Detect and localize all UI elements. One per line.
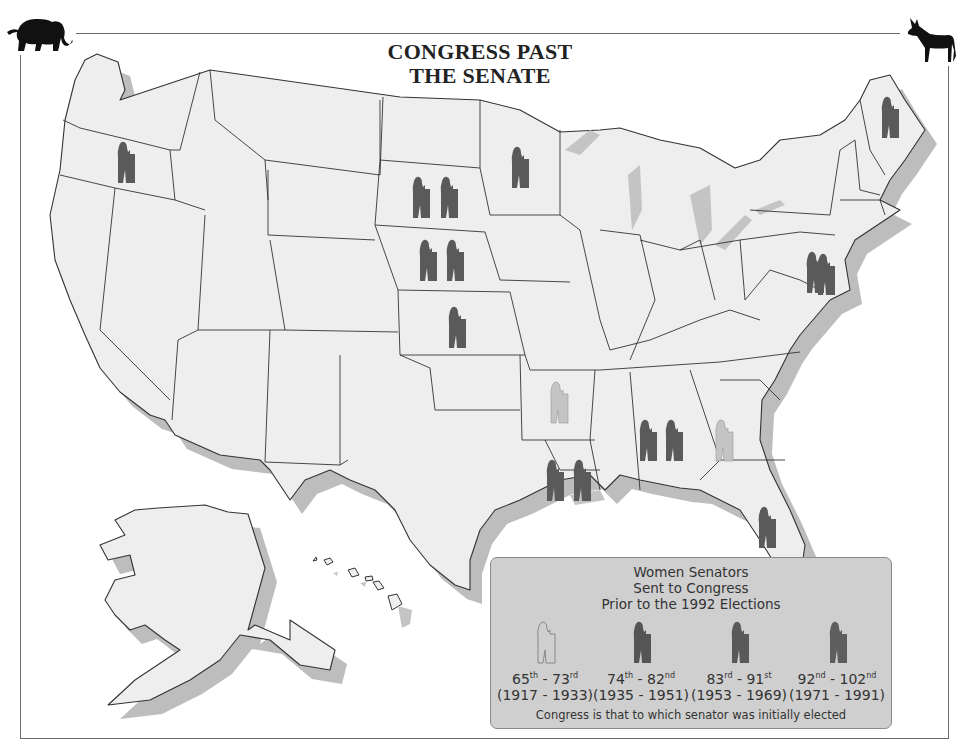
legend-title: Women Senators Sent to Congress Prior to… <box>491 564 891 612</box>
legend-years-3: (1953 - 1969) <box>683 687 795 703</box>
senator-icon <box>443 238 465 286</box>
legend-item-3: 83rd - 91st (1953 - 1969) <box>689 620 789 703</box>
legend-title-line-3: Prior to the 1992 Elections <box>491 596 891 612</box>
senator-dark-icon <box>630 620 652 664</box>
senator-icon <box>508 145 530 193</box>
senator-icon <box>662 418 684 466</box>
legend-congress-range-2: 74th - 82nd <box>591 668 691 687</box>
legend-item-2: 74th - 82nd (1935 - 1951) <box>591 620 691 703</box>
legend-years-4: (1971 - 1991) <box>781 687 893 703</box>
senator-icon <box>437 175 459 223</box>
senator-icon <box>547 380 569 428</box>
legend-title-line-2: Sent to Congress <box>491 580 891 596</box>
senator-icon <box>114 140 136 188</box>
senator-icon <box>755 505 777 553</box>
senator-icon <box>416 238 438 286</box>
legend-congress-range-4: 92nd - 102nd <box>787 668 887 687</box>
legend-item-4: 92nd - 102nd (1971 - 1991) <box>787 620 887 703</box>
senator-dark-icon <box>826 620 848 664</box>
senator-icon <box>636 418 658 466</box>
senator-icon <box>409 175 431 223</box>
senator-dark-icon <box>728 620 750 664</box>
legend-congress-range-3: 83rd - 91st <box>689 668 789 687</box>
senator-icon <box>814 252 836 300</box>
senator-icon <box>878 95 900 143</box>
legend-item-1: 65th - 73rd (1917 - 1933) <box>495 620 595 703</box>
legend-congress-range-1: 65th - 73rd <box>495 668 595 687</box>
senator-outline-icon <box>534 620 556 664</box>
legend-box: Women Senators Sent to Congress Prior to… <box>490 557 892 729</box>
senator-icon <box>712 418 734 466</box>
legend-years-2: (1935 - 1951) <box>585 687 697 703</box>
senator-icon <box>543 458 565 506</box>
legend-note: Congress is that to which senator was in… <box>491 708 891 722</box>
senator-icon <box>445 305 467 353</box>
senator-icon <box>570 458 592 506</box>
legend-title-line-1: Women Senators <box>491 564 891 580</box>
